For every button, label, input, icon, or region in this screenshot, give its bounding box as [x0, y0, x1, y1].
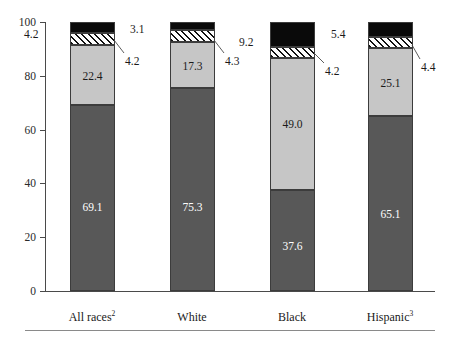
bar-all-races[interactable]: 22.4 69.1 [70, 22, 115, 291]
category-label-all-races-footnote: 2 [112, 309, 116, 318]
category-label-white-text: White [177, 310, 206, 324]
bar-hispanic-light-label: 25.1 [369, 78, 412, 90]
y-tick-mark-40 [40, 183, 45, 184]
bar-hispanic-segment-dark[interactable]: 65.1 [368, 116, 413, 291]
y-tick-mark-0 [40, 291, 45, 292]
bar-black-black-callout: 9.2 [239, 37, 253, 49]
bar-black-light-label: 49.0 [271, 119, 314, 131]
bar-white-light-label: 17.3 [171, 61, 214, 73]
bar-white-dark-label: 75.3 [171, 202, 214, 214]
bar-white[interactable]: 17.3 75.3 [170, 22, 215, 291]
y-tick-label-80: 80 [8, 71, 36, 83]
bar-white-segment-light[interactable]: 17.3 [170, 42, 215, 89]
bar-white-black-callout: 3.1 [130, 24, 144, 36]
bar-all-races-segment-light[interactable]: 22.4 [70, 45, 115, 105]
bar-white-hatch-callout: 4.3 [225, 56, 239, 68]
bar-hispanic-dark-label: 65.1 [369, 209, 412, 221]
category-label-black: Black [252, 310, 332, 323]
category-label-hispanic-text: Hispanic [367, 310, 410, 324]
bar-black-segment-light[interactable]: 49.0 [270, 58, 315, 190]
bar-white-segment-dark[interactable]: 75.3 [170, 88, 215, 291]
bar-all-races-dark-label: 69.1 [71, 202, 114, 214]
bar-black-dark-label: 37.6 [271, 241, 314, 253]
bar-black[interactable]: 49.0 37.6 [270, 22, 315, 291]
y-tick-mark-100 [40, 22, 45, 23]
bar-black-segment-black[interactable] [270, 22, 315, 47]
bar-all-races-hatch-callout: 4.2 [125, 56, 139, 68]
category-label-hispanic: Hispanic3 [350, 310, 430, 323]
stacked-bar-chart: 100 80 60 40 20 0 22.4 69.1 4.2 4.2 17.3… [0, 0, 451, 341]
bar-black-segment-hatched[interactable] [270, 47, 315, 58]
y-tick-mark-60 [40, 130, 45, 131]
y-tick-mark-80 [40, 76, 45, 77]
bar-hispanic-black-callout: 5.4 [331, 29, 345, 41]
bar-hispanic-segment-light[interactable]: 25.1 [368, 48, 413, 116]
bar-all-races-segment-black[interactable] [70, 22, 115, 33]
y-tick-label-100: 100 [8, 17, 36, 29]
bar-all-races-segment-dark[interactable]: 69.1 [70, 105, 115, 291]
bar-black-segment-dark[interactable]: 37.6 [270, 190, 315, 291]
bar-hispanic-hatch-callout: 4.4 [421, 62, 435, 74]
bar-black-hatch-callout: 4.2 [325, 66, 339, 78]
category-label-hispanic-footnote: 3 [409, 309, 413, 318]
top-crop-artifact [54, 0, 68, 5]
x-axis-baseline [45, 291, 435, 292]
bar-all-races-segment-hatched[interactable] [70, 33, 115, 44]
bar-white-segment-hatched[interactable] [170, 30, 215, 42]
bar-white-segment-black[interactable] [170, 22, 215, 30]
bar-all-races-light-label: 22.4 [71, 71, 114, 83]
category-label-all-races: All races2 [52, 310, 132, 323]
y-tick-label-60: 60 [8, 125, 36, 137]
footer-divider-rule [25, 330, 435, 331]
y-tick-label-0: 0 [8, 286, 36, 298]
bar-all-races-black-callout: 4.2 [24, 29, 38, 41]
bar-hispanic-segment-hatched[interactable] [368, 37, 413, 49]
bar-hispanic[interactable]: 25.1 65.1 [368, 22, 413, 291]
category-label-all-races-text: All races [69, 310, 112, 324]
y-tick-label-20: 20 [8, 232, 36, 244]
category-label-black-text: Black [278, 310, 306, 324]
y-tick-mark-20 [40, 237, 45, 238]
y-tick-label-40: 40 [8, 178, 36, 190]
y-axis-line [45, 22, 46, 292]
bar-hispanic-segment-black[interactable] [368, 22, 413, 37]
category-label-white: White [152, 310, 232, 323]
